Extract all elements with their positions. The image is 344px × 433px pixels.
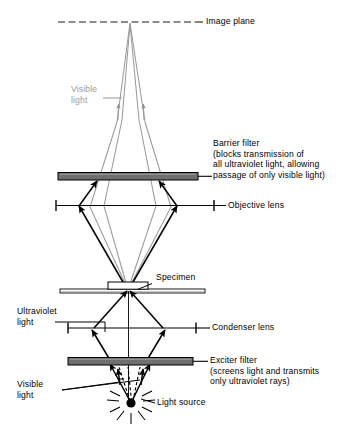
light-source-lamp [107, 391, 155, 424]
specimen-slide [60, 282, 205, 293]
uv-ray-bundle-lower [92, 291, 165, 402]
condenser-lens-label: Condenser lens [212, 322, 274, 333]
exciter-filter-bar [68, 358, 208, 366]
condenser-lens-line [68, 323, 210, 334]
visible-light-bottom-label: Visible light [17, 379, 43, 400]
objective-lens-label: Objective lens [228, 200, 284, 211]
image-plane-label: Image plane [206, 16, 255, 27]
visible-light-top-label: Visible light [71, 84, 97, 105]
blocked-visible-rays [119, 367, 140, 401]
objective-lens-line [56, 200, 214, 211]
ultraviolet-light-label: Ultraviolet light [17, 306, 57, 327]
diagram-root: Image plane Visible light Barrier filter… [0, 0, 344, 433]
visible-light-ray-bundle [90, 23, 171, 290]
exciter-filter-label: Exciter filter (screens light and transm… [210, 355, 319, 387]
barrier-filter-label: Barrier filter (blocks transmission of a… [213, 138, 325, 180]
specimen-label: Specimen [156, 272, 195, 283]
light-source-label: Light source [157, 397, 206, 408]
barrier-filter-bar [58, 173, 212, 181]
